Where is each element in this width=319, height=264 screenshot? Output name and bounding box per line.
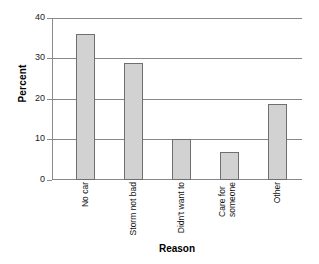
bar-no-car [76,34,95,180]
y-axis-title: Percent [17,44,28,124]
bar-storm-not-bad [124,63,143,180]
x-tick-label-other: Other [268,182,287,242]
bar-care-for-someone [220,152,239,180]
x-tick-label-care-for-someone: Care forsomeone [218,182,237,242]
x-tick-label-didnt-want-to: Didn't want to [172,182,191,242]
bar-didnt-want-to [172,139,191,180]
x-tick-label-storm-not-bad: Storm not bad [124,182,143,242]
bar-other [268,104,287,180]
y-tick-mark-0 [47,180,52,181]
x-tick-label-care-for-someone-text: Care forsomeone [218,182,237,217]
x-axis-tick-labels: No car Storm not bad Didn't want to Care… [52,182,302,244]
y-tick-label-10: 10 [21,134,45,143]
y-tick-label-40: 40 [21,13,45,22]
x-tick-label-no-car: No car [76,182,95,242]
y-tick-label-0: 0 [21,175,45,184]
bar-chart-figure: 40 30 20 10 0 Percent No car Storm not b… [0,0,319,264]
plot-area [52,18,302,180]
y-axis-tick-labels: 40 30 20 10 0 [17,0,45,264]
x-axis-title: Reason [52,243,302,254]
gridline-40 [52,18,302,19]
